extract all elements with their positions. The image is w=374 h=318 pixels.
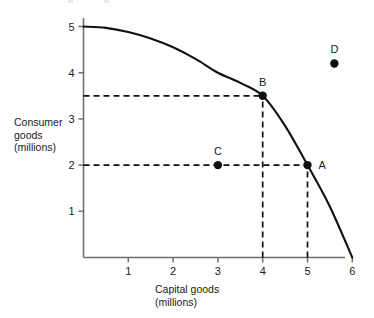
data-point-A [303, 161, 311, 169]
y-axis-label: Consumergoods(millions) [14, 116, 62, 154]
x-tick-label-4: 4 [260, 265, 266, 277]
y-axis-label-units: (millions) [14, 141, 56, 153]
data-point-label-B: B [259, 76, 266, 88]
x-tick-label-5: 5 [304, 265, 310, 277]
annotated-points-group: ABCD [214, 43, 339, 171]
y-tick-label-2: 2 [68, 159, 74, 171]
y-tick-label-1: 1 [68, 205, 74, 217]
x-axis-label: Capital goods(millions) [155, 283, 219, 308]
production-possibility-frontier-curve [84, 27, 353, 258]
ppf-chart-figure: ABCD 12345612345 Consumergoods(millions)… [0, 0, 374, 318]
y-tick-label-3: 3 [68, 113, 74, 125]
y-axis-label-line1: Consumer [14, 116, 62, 128]
x-tick-label-3: 3 [215, 265, 221, 277]
x-axis-label-text: Capital goods [155, 283, 219, 295]
y-axis-label-line2: goods [14, 129, 43, 141]
x-tick-label-6: 6 [349, 265, 355, 277]
x-axis-label-units: (millions) [155, 296, 197, 308]
tick-labels-group: 12345612345 [68, 21, 355, 277]
x-tick-label-1: 1 [125, 265, 131, 277]
y-tick-label-5: 5 [68, 21, 74, 33]
chart-plot-area: ABCD 12345612345 [0, 0, 374, 318]
x-tick-label-2: 2 [170, 265, 176, 277]
y-tick-label-4: 4 [68, 67, 74, 79]
data-point-label-D: D [330, 43, 338, 55]
data-point-label-C: C [214, 145, 222, 157]
data-point-label-A: A [319, 159, 327, 171]
data-point-C [214, 161, 222, 169]
guide-lines-group [84, 96, 308, 258]
data-point-B [259, 92, 267, 100]
data-point-D [330, 59, 338, 67]
